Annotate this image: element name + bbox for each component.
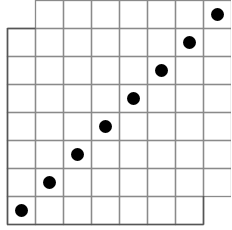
dot-marker bbox=[211, 8, 224, 21]
dot-marker bbox=[127, 92, 140, 105]
grid-cell bbox=[64, 1, 92, 29]
grid-cell bbox=[204, 113, 232, 141]
grid-cell bbox=[92, 1, 120, 29]
grid-cell bbox=[176, 113, 204, 141]
dot-marker bbox=[43, 176, 56, 189]
grid-cell bbox=[204, 141, 232, 169]
grid-cell bbox=[148, 141, 176, 169]
grid-cell bbox=[176, 1, 204, 29]
grid-cell bbox=[8, 85, 36, 113]
grid-cell bbox=[36, 113, 64, 141]
grid-cell bbox=[8, 57, 36, 85]
grid-cell bbox=[92, 141, 120, 169]
grid-cell bbox=[64, 113, 92, 141]
grid-cell bbox=[204, 57, 232, 85]
grid-cell bbox=[176, 141, 204, 169]
grid-cell bbox=[64, 29, 92, 57]
grid-cell bbox=[176, 169, 204, 197]
dot-marker bbox=[183, 36, 196, 49]
grid-cell bbox=[176, 197, 204, 225]
grid-cell bbox=[120, 113, 148, 141]
grid-cell bbox=[120, 169, 148, 197]
grid-cell bbox=[92, 197, 120, 225]
grid-diagram bbox=[0, 0, 231, 230]
grid-cell bbox=[92, 169, 120, 197]
grid-cell bbox=[92, 57, 120, 85]
grid-cell bbox=[64, 85, 92, 113]
grid-cell bbox=[120, 57, 148, 85]
grid-cell bbox=[36, 85, 64, 113]
grid-cell bbox=[204, 85, 232, 113]
dot-marker bbox=[71, 148, 84, 161]
grid-cell bbox=[148, 169, 176, 197]
dot-marker bbox=[99, 120, 112, 133]
grid-cell bbox=[148, 29, 176, 57]
grid-cell bbox=[64, 57, 92, 85]
grid-cell bbox=[148, 197, 176, 225]
grid-cell bbox=[120, 29, 148, 57]
grid-cell bbox=[36, 57, 64, 85]
grid-cell bbox=[36, 29, 64, 57]
grid-cell bbox=[120, 141, 148, 169]
grid-cell bbox=[204, 29, 232, 57]
grid-cell bbox=[120, 197, 148, 225]
grid-cell bbox=[8, 29, 36, 57]
grid-cell bbox=[176, 57, 204, 85]
grid-cell bbox=[92, 29, 120, 57]
grid-cell bbox=[8, 113, 36, 141]
grid-cell bbox=[148, 113, 176, 141]
grid-cell bbox=[8, 141, 36, 169]
dot-marker bbox=[155, 64, 168, 77]
grid-cell bbox=[92, 85, 120, 113]
grid-cell bbox=[204, 169, 232, 197]
grid-cell bbox=[36, 1, 64, 29]
grid-cell bbox=[148, 1, 176, 29]
grid-cell bbox=[64, 197, 92, 225]
grid-cell bbox=[176, 85, 204, 113]
grid-cell bbox=[36, 141, 64, 169]
grid-cell bbox=[8, 169, 36, 197]
grid-cell bbox=[148, 85, 176, 113]
grid-cell bbox=[36, 197, 64, 225]
grid-cell bbox=[120, 1, 148, 29]
dot-marker bbox=[15, 204, 28, 217]
grid-cell bbox=[64, 169, 92, 197]
